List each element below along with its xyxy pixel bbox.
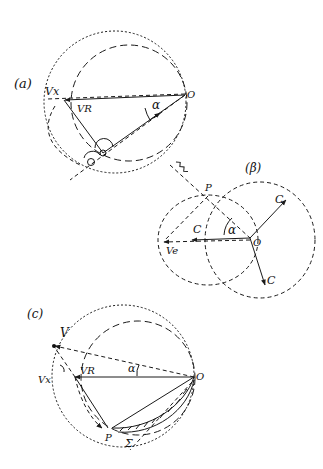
panel-a-alpha-label: α (152, 98, 160, 112)
panel-b-c-label-upper: C (275, 193, 284, 206)
panel-b: (β) P O C C C Ve α (158, 160, 315, 298)
panel-c-vx-label: Vx (38, 374, 51, 385)
panel-b-p-label: P (204, 182, 212, 193)
panel-a-point-2 (88, 159, 95, 166)
panel-c-alpha-arc (137, 365, 139, 376)
panel-a-vx-label: Vx (45, 85, 60, 98)
panel-b-origin-label: O (253, 237, 261, 248)
panel-c-dashed-arc (75, 377, 102, 428)
panel-a-arrow-small (150, 113, 160, 120)
panel-b-c-label-lower: C (267, 274, 276, 287)
panel-a: (a) O Vx VR α (14, 31, 195, 180)
panel-c-label: (c) (27, 307, 43, 321)
panel-c-vr-label: VR (80, 365, 95, 376)
panel-c: (c) O V Vx VR α P Σ (27, 305, 204, 450)
panel-b-left-circle (158, 195, 258, 285)
panel-a-alpha-arc (145, 108, 150, 120)
panel-a-origin-label: O (187, 89, 195, 100)
panel-b-label: (β) (245, 161, 262, 175)
panel-a-label: (a) (14, 76, 32, 91)
panel-c-v-label: V (60, 326, 70, 340)
panel-c-v-to-vx (53, 345, 75, 377)
panel-c-p-label: P (104, 432, 112, 443)
panel-c-v-vector (55, 346, 194, 377)
panel-b-alpha-label: α (228, 223, 236, 237)
panel-c-outer-dotted-circle (52, 305, 194, 447)
panel-b-ve-label: Ve (166, 245, 178, 256)
panel-c-v-point (52, 344, 56, 348)
diagram-canvas: (a) O Vx VR α (β) P O C C C (0, 0, 323, 469)
panel-a-vr-label: VR (77, 103, 92, 114)
panel-a-right-angle-2 (84, 151, 100, 158)
panel-c-right-angle (60, 365, 64, 372)
panel-c-inner-dashed-circle (81, 321, 195, 435)
panel-b-c-vector-left (192, 238, 250, 240)
panel-c-sigma-label: Σ (124, 437, 133, 450)
panel-c-alpha-label: α (128, 362, 136, 375)
panel-c-origin-label: O (196, 371, 204, 382)
panel-c-chord (75, 377, 108, 428)
panel-b-ve-vector (164, 240, 250, 242)
panel-c-hatched-region (112, 377, 194, 432)
panel-a-vr-vector (65, 95, 185, 100)
panel-b-c-label-left: C (193, 223, 202, 236)
